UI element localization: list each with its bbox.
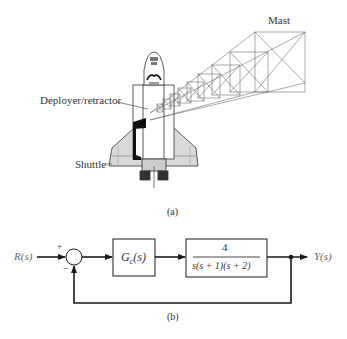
caption-a: (a) xyxy=(167,207,178,217)
shuttle-icon xyxy=(109,52,198,188)
controller-label: Gc(s) xyxy=(121,251,146,266)
block-diagram xyxy=(37,239,307,303)
minus-sign: − xyxy=(63,264,69,274)
shuttle-mast-illustration xyxy=(0,0,347,339)
plant-denominator: s(s + 1)(s + 2) xyxy=(192,261,251,271)
plant-numerator: 4 xyxy=(222,242,228,253)
deployer-retractor-label: Deployer/retractor xyxy=(40,95,121,106)
caption-b: (b) xyxy=(167,312,179,322)
shuttle-label: Shuttle xyxy=(75,159,106,170)
plus-sign: + xyxy=(57,242,62,251)
figure: Mast Deployer/retractor Shuttle (a) R(s)… xyxy=(0,0,347,339)
output-signal-label: Y(s) xyxy=(314,251,332,262)
mast-label: Mast xyxy=(268,15,290,26)
input-signal-label: R(s) xyxy=(14,251,32,262)
